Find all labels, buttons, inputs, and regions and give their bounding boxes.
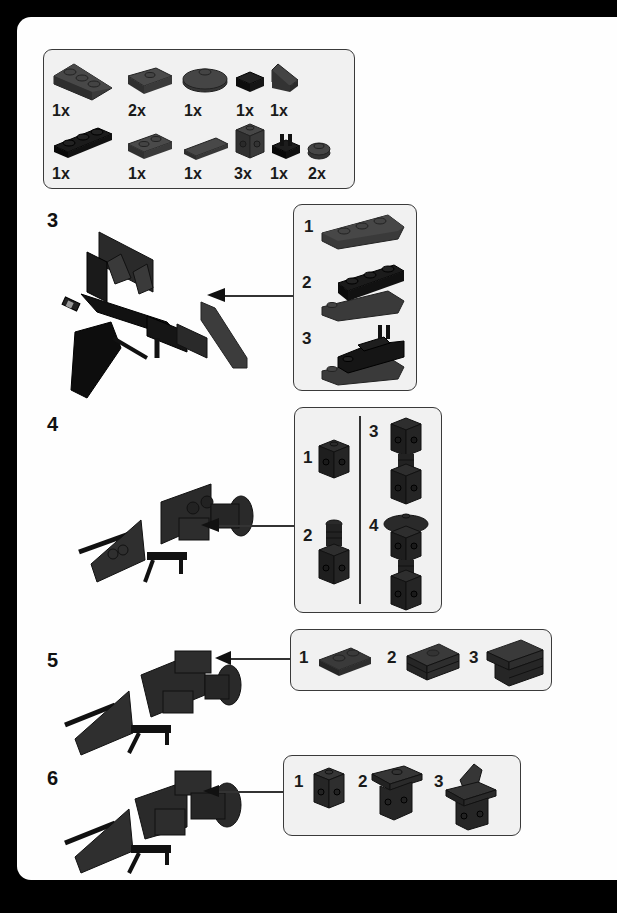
round-plate-1x1-icon — [306, 140, 332, 162]
step-3-model-illustration — [57, 222, 257, 412]
step-number: 4 — [47, 413, 58, 436]
step-3-callout-panel: 1 2 3 — [293, 204, 417, 391]
substep-number: 2 — [358, 772, 367, 792]
parts-list-panel: 1x 2x 1x 1x 1x 1x 1x 1x — [43, 49, 355, 189]
brick-with-jumper-icon — [370, 764, 424, 822]
substep-number: 1 — [304, 217, 313, 237]
step-6-model-illustration — [55, 765, 255, 875]
round-dish-2x2-icon — [182, 64, 228, 94]
arrow-left-icon — [203, 785, 219, 797]
substep-number: 3 — [469, 648, 478, 668]
qty-label: 1x — [270, 102, 288, 120]
qty-label: 1x — [184, 165, 202, 183]
plate-stack-jumper-icon — [405, 642, 461, 682]
substep-number: 2 — [387, 648, 396, 668]
arrow-left-icon — [201, 518, 219, 532]
plate-stack-tile-icon — [485, 638, 547, 686]
arrow-left-icon — [207, 288, 225, 302]
qty-label: 2x — [308, 165, 326, 183]
qty-label: 1x — [270, 165, 288, 183]
step-5-callout-panel: 1 2 3 — [290, 629, 552, 691]
callout-pointer-line — [231, 658, 290, 660]
arrow-left-icon — [215, 651, 231, 665]
step-6-callout-panel: 1 2 3 — [283, 755, 521, 836]
substep-number: 1 — [303, 448, 312, 468]
step-4-model-illustration — [61, 472, 261, 582]
substep-number: 4 — [369, 516, 378, 536]
qty-label: 2x — [128, 102, 146, 120]
substep-number: 1 — [299, 648, 308, 668]
qty-label: 1x — [236, 102, 254, 120]
brick-1x1-studs-sides-icon — [317, 438, 351, 480]
wedge-with-plate-icon — [318, 261, 406, 323]
stacked-bricks-dish-icon — [381, 512, 431, 612]
qty-label: 3x — [234, 165, 252, 183]
plate-clip-black-icon — [270, 132, 302, 160]
callout-pointer-line — [217, 525, 294, 527]
callout-pointer-line — [223, 295, 293, 297]
wedge-plate-3x2-icon — [52, 60, 114, 100]
slope-1x1-icon — [268, 62, 300, 94]
plate-1x2-jumper-icon — [126, 66, 174, 94]
qty-label: 1x — [184, 102, 202, 120]
substep-number: 3 — [302, 329, 311, 349]
substep-number: 3 — [434, 772, 443, 792]
plate-1x2-icon — [126, 132, 174, 160]
brick-1x1-studs-sides-icon — [312, 766, 346, 810]
plate-1x2-icon — [317, 644, 373, 676]
substep-number: 2 — [303, 526, 312, 546]
plate-1x3-black-icon — [52, 126, 114, 158]
brick-with-slope-icon — [444, 762, 500, 832]
instruction-page: 1x 2x 1x 1x 1x 1x 1x 1x — [17, 17, 617, 880]
brick-1x1-studs-sides-icon — [234, 122, 266, 160]
brick-with-round-plates-icon — [317, 518, 351, 586]
substep-number: 3 — [369, 422, 378, 442]
callout-pointer-line — [219, 791, 283, 793]
wedge-plate-icon — [318, 213, 406, 251]
qty-label: 1x — [52, 102, 70, 120]
stacked-bricks-icon — [389, 416, 423, 506]
step-4-callout-panel: 1 2 3 4 — [294, 407, 442, 613]
wedge-with-clip-icon — [318, 323, 406, 387]
tile-1x1-black-icon — [234, 70, 266, 94]
substep-number: 2 — [302, 273, 311, 293]
qty-label: 1x — [52, 165, 70, 183]
substep-number: 1 — [294, 772, 303, 792]
callout-divider — [359, 416, 361, 604]
qty-label: 1x — [128, 165, 146, 183]
tile-1x2-icon — [182, 136, 230, 160]
